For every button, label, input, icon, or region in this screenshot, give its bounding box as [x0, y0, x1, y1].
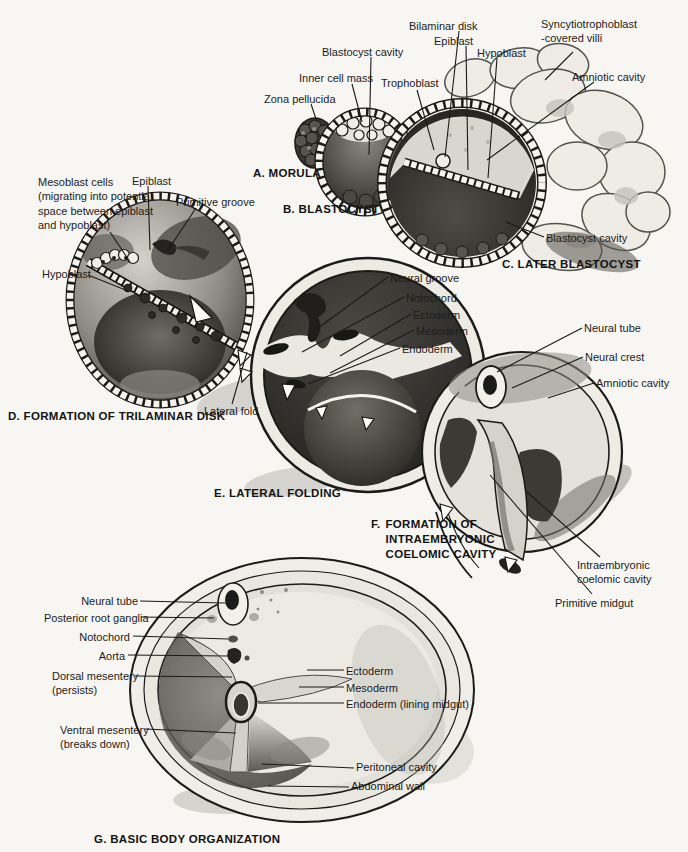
label-blastocyst-cavity-b: Blastocyst cavity — [322, 45, 403, 59]
label-endoderm-e: Endoderm — [402, 342, 453, 356]
label-abdominal-wall: Abdominal wall — [351, 779, 425, 793]
label-lateral-fold: Lateral fold — [204, 404, 258, 418]
label-ectoderm-g: Ectoderm — [346, 664, 393, 678]
label-notochord-e: Notochord — [406, 291, 457, 305]
caption-coelomic-body: FORMATION OF INTRAEMBRYONIC COELOMIC CAV… — [386, 517, 497, 562]
label-mesoderm-g: Mesoderm — [346, 681, 398, 695]
label-posterior-root-ganglia: Posterior root ganglia — [44, 611, 149, 625]
label-dorsal-mesentery: Dorsal mesentery (persists) — [52, 669, 138, 698]
caption-morula: A. MORULA — [253, 166, 321, 181]
label-syncytiotrophoblast-villi: Syncytiotrophoblast -covered villi — [541, 17, 637, 46]
label-amniotic-cavity-f: Amniotic cavity — [596, 376, 669, 390]
label-neural-groove: Neural groove — [390, 271, 459, 285]
label-trophoblast: Trophoblast — [381, 76, 439, 90]
label-mesoderm-e: Mesoderm — [416, 324, 468, 338]
label-hypoblast-c: Hypoblast — [477, 46, 526, 60]
label-bilaminar-disk: Bilaminar disk — [409, 19, 477, 33]
label-primitive-midgut: Primitive midgut — [555, 596, 633, 610]
label-epiblast-d: Epiblast — [132, 174, 171, 188]
label-ventral-mesentery: Ventral mesentery (breaks down) — [60, 723, 149, 752]
label-hypoblast-d: Hypoblast — [42, 267, 91, 281]
figure-page: Zona pellucida Inner cell mass Blastocys… — [0, 0, 688, 852]
label-endoderm-lining-midgut: Endoderm (lining midgut) — [346, 697, 469, 711]
label-epiblast-c: Epiblast — [434, 34, 473, 48]
label-neural-crest: Neural crest — [585, 350, 644, 364]
label-neural-tube-g: Neural tube — [60, 594, 138, 608]
caption-later-blastocyst: C. LATER BLASTOCYST — [502, 257, 641, 272]
caption-trilaminar-disk: D. FORMATION OF TRILAMINAR DISK — [8, 409, 225, 424]
label-zona-pellucida: Zona pellucida — [264, 92, 336, 106]
label-aorta: Aorta — [55, 649, 125, 663]
label-amniotic-cavity-c: Amniotic cavity — [572, 70, 645, 84]
caption-coelomic-cavity: F. FORMATION OF INTRAEMBRYONIC COELOMIC … — [371, 517, 497, 562]
label-neural-tube-f: Neural tube — [584, 321, 641, 335]
label-notochord-g: Notochord — [55, 630, 130, 644]
caption-lateral-folding: E. LATERAL FOLDING — [214, 486, 341, 501]
label-primitive-groove: Primitive groove — [176, 195, 255, 209]
caption-basic-body-organization: G. BASIC BODY ORGANIZATION — [94, 832, 280, 847]
label-inner-cell-mass: Inner cell mass — [299, 71, 373, 85]
caption-blastocyst: B. BLASTOCYST — [283, 202, 379, 217]
label-intraembryonic-coelomic-cavity: Intraembryonic coelomic cavity — [577, 558, 652, 587]
label-peritoneal-cavity: Peritoneal cavity — [356, 760, 437, 774]
label-ectoderm-e: Ectoderm — [413, 308, 460, 322]
caption-coelomic-prefix: F. — [371, 517, 381, 562]
label-blastocyst-cavity-c: Blastocyst cavity — [546, 231, 627, 245]
